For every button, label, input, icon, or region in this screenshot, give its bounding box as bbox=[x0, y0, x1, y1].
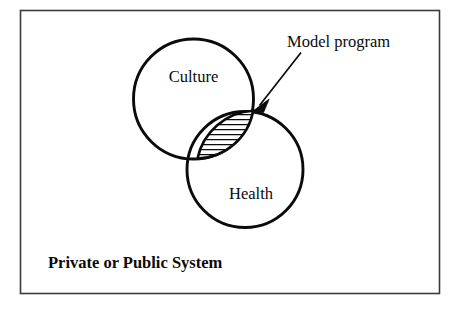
venn-diagram-canvas: Culture Health Model program Private or … bbox=[0, 0, 460, 309]
footer-label: Private or Public System bbox=[48, 253, 223, 272]
culture-label: Culture bbox=[169, 67, 219, 86]
venn-diagram-figure: Culture Health Model program Private or … bbox=[0, 0, 460, 309]
model-program-label: Model program bbox=[287, 32, 390, 51]
health-label: Health bbox=[229, 184, 274, 203]
